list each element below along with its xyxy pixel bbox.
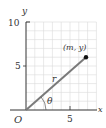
y-tick-label-10: 10 xyxy=(8,18,20,28)
grid xyxy=(26,22,96,110)
angle-label: θ xyxy=(47,96,53,106)
y-tick-label-5: 5 xyxy=(15,61,21,71)
point-marker xyxy=(84,55,88,59)
point-label: (m, y) xyxy=(63,43,86,52)
x-axis-label: x xyxy=(98,105,103,114)
x-tick-label-5: 5 xyxy=(67,114,73,124)
y-axis-label: y xyxy=(21,6,28,16)
radius-label: r xyxy=(52,74,57,84)
origin-label: O xyxy=(14,114,22,125)
polar-diagram: y 10 5 x 5 O (m, y) r θ xyxy=(0,0,106,128)
